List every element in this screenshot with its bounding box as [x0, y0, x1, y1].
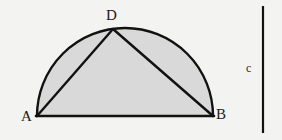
- figure-canvas: [0, 0, 282, 140]
- geometry-figure: A B D c: [0, 0, 282, 140]
- segment-label-c: c: [246, 62, 251, 74]
- vertex-label-d: D: [106, 8, 117, 23]
- vertex-label-b: B: [216, 107, 226, 122]
- vertex-label-a: A: [21, 109, 32, 124]
- semicircle-shape: [37, 28, 213, 116]
